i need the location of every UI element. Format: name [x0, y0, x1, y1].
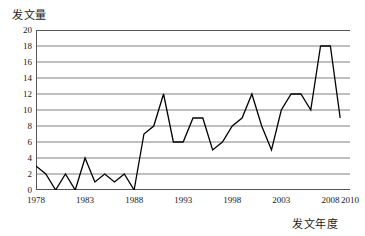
y-tick-label: 8 — [12, 122, 32, 131]
x-tick-label: 2010 — [334, 196, 365, 205]
y-tick-label: 6 — [12, 138, 32, 147]
y-tick-label: 0 — [12, 186, 32, 195]
y-tick-label: 16 — [12, 58, 32, 67]
y-tick-label: 4 — [12, 154, 32, 163]
x-tick-label: 1988 — [118, 196, 150, 205]
x-tick-label: 1998 — [216, 196, 248, 205]
y-axis-label: 发文量 — [12, 6, 47, 22]
plot-area — [36, 30, 350, 190]
x-tick-label: 2003 — [265, 196, 297, 205]
y-tick-label: 2 — [12, 170, 32, 179]
x-tick-label: 1978 — [20, 196, 52, 205]
x-tick-label: 1993 — [167, 196, 199, 205]
y-tick-label: 14 — [12, 74, 32, 83]
x-tick-label: 1983 — [69, 196, 101, 205]
gridlines — [36, 46, 350, 174]
x-axis-label: 发文年度 — [292, 215, 338, 231]
y-tick-label: 20 — [12, 26, 32, 35]
y-tick-label: 12 — [12, 90, 32, 99]
y-tick-label: 18 — [12, 42, 32, 51]
y-tick-label: 10 — [12, 106, 32, 115]
data-line — [36, 46, 340, 190]
line-chart-svg — [36, 30, 350, 190]
chart-figure: 发文量 发文年度 02468101214161820 1978198319881… — [0, 0, 365, 236]
